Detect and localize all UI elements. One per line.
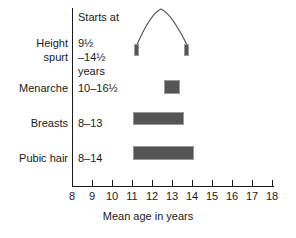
bar-pubic-hair	[133, 146, 194, 160]
x-axis-tick	[92, 180, 93, 187]
x-axis-tick	[212, 180, 213, 187]
x-axis-tick	[112, 180, 113, 187]
bar-menarche	[164, 80, 180, 94]
row-label-breasts: Breasts	[31, 117, 68, 130]
row-label-pubic-hair: Pubic hair	[19, 152, 68, 165]
x-axis-tick	[232, 180, 233, 187]
row-range-height-spurt-line3: years	[78, 65, 105, 78]
row-label-menarche: Menarche	[19, 82, 68, 95]
x-axis-tick	[272, 180, 273, 187]
height-spurt-marker-end	[184, 44, 189, 56]
x-axis-tick	[72, 180, 73, 187]
puberty-timeline-chart: Starts at Height spurt 9½ –14½ years Men…	[0, 0, 296, 238]
row-range-height-spurt-line1: 9½	[78, 37, 93, 50]
column-header-starts-at: Starts at	[78, 11, 119, 24]
row-label-height-spurt-line2: spurt	[44, 51, 68, 64]
x-axis-tick	[252, 180, 253, 187]
x-axis-line	[72, 186, 274, 187]
row-range-height-spurt-line2: –14½	[78, 51, 106, 64]
row-range-pubic-hair: 8–14	[78, 152, 102, 165]
x-axis-tick	[192, 180, 193, 187]
row-range-breasts: 8–13	[78, 117, 102, 130]
x-axis-tick	[152, 180, 153, 187]
x-axis-tick-label: 18	[260, 190, 284, 202]
table-divider-line	[72, 8, 73, 186]
x-axis-tick	[172, 180, 173, 187]
row-label-height-spurt-line1: Height	[36, 37, 68, 50]
height-spurt-marker-start	[134, 44, 139, 56]
x-axis-tick	[132, 180, 133, 187]
x-axis-title: Mean age in years	[0, 210, 296, 222]
bar-breasts	[133, 112, 184, 125]
row-range-menarche: 10–16½	[78, 82, 118, 95]
